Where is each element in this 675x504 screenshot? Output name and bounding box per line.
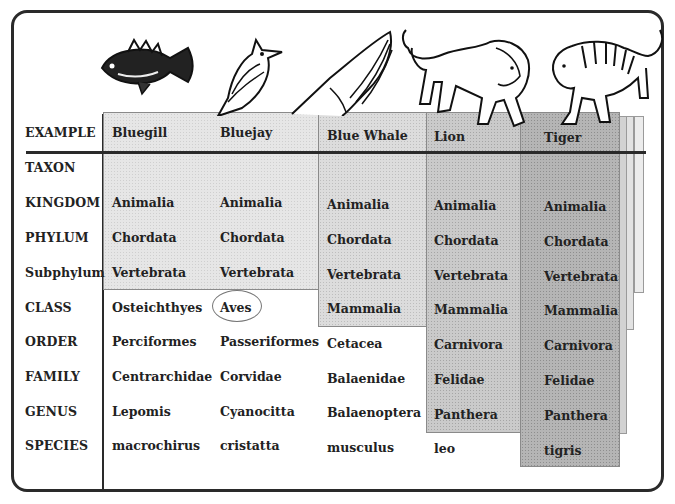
cell-tiger-species: tigris: [544, 443, 582, 458]
cell-bluegill-class: Osteichthyes: [112, 300, 202, 315]
header-divider: [26, 151, 646, 154]
cell-bluegill-phylum: Chordata: [112, 230, 177, 245]
row-label-genus: GENUS: [25, 404, 77, 419]
cell-tiger-family: Felidae: [544, 373, 594, 388]
cell-bluewhale-kingdom: Animalia: [327, 197, 389, 212]
cell-bluegill-subphylum: Vertebrata: [112, 265, 186, 280]
group-strip-1: [619, 116, 627, 434]
bluegill-fish-icon: [98, 38, 204, 102]
row-label-kingdom: KINGDOM: [25, 195, 100, 210]
cell-lion-class: Mammalia: [434, 302, 508, 317]
cell-bluewhale-subphylum: Vertebrata: [327, 267, 401, 282]
cell-lion-phylum: Chordata: [434, 233, 499, 248]
blue-whale-icon: [290, 28, 402, 116]
row-label-taxon: TAXON: [25, 160, 76, 175]
row-label-subphylum: Subphylum: [25, 265, 105, 280]
cell-bluejay-genus: Cyanocitta: [220, 404, 295, 419]
row-label-species: SPECIES: [25, 438, 88, 453]
cell-bluejay-class: Aves: [220, 300, 251, 315]
cell-lion-kingdom: Animalia: [434, 198, 496, 213]
row-label-phylum: PHYLUM: [25, 230, 89, 245]
cell-bluewhale-order: Cetacea: [327, 336, 382, 351]
row-label-example: EXAMPLE: [25, 125, 96, 140]
cell-tiger-subphylum: Vertebrata: [544, 269, 618, 284]
cell-tiger-kingdom: Animalia: [544, 199, 606, 214]
cell-bluejay-phylum: Chordata: [220, 230, 285, 245]
cell-tiger-genus: Panthera: [544, 408, 608, 423]
cell-bluegill-species: macrochirus: [112, 438, 200, 453]
cell-tiger-class: Mammalia: [544, 303, 618, 318]
cell-bluegill-family: Centrarchidae: [112, 369, 212, 384]
cell-bluegill-genus: Lepomis: [112, 404, 171, 419]
bluejay-bird-icon: [210, 36, 286, 116]
cell-bluejay-order: Passeriformes: [220, 334, 319, 349]
tiger-icon: [548, 28, 666, 132]
cell-bluejay-subphylum: Vertebrata: [220, 265, 294, 280]
cell-bluejay-kingdom: Animalia: [220, 195, 282, 210]
cell-lion-order: Carnivora: [434, 337, 503, 352]
shaded-group-mammalia: [318, 112, 428, 327]
cell-lion-species: leo: [434, 441, 455, 456]
cell-bluewhale-species: musculus: [327, 440, 394, 455]
cell-bluejay-species: cristatta: [220, 438, 280, 453]
cell-lion-genus: Panthera: [434, 407, 498, 422]
lion-icon: [400, 26, 540, 132]
group-strip-3: [634, 116, 644, 293]
row-label-family: FAMILY: [25, 369, 80, 384]
cell-tiger-example: Tiger: [544, 130, 581, 145]
cell-bluewhale-example: Blue Whale: [327, 128, 408, 143]
cell-bluewhale-genus: Balaenoptera: [327, 405, 421, 420]
cell-bluewhale-family: Balaenidae: [327, 371, 405, 386]
cell-lion-family: Felidae: [434, 372, 484, 387]
cell-bluewhale-phylum: Chordata: [327, 232, 392, 247]
cell-bluegill-order: Perciformes: [112, 334, 196, 349]
cell-bluewhale-class: Mammalia: [327, 301, 401, 316]
row-label-class: CLASS: [25, 300, 72, 315]
cell-bluegill-example: Bluegill: [112, 125, 167, 140]
cell-lion-subphylum: Vertebrata: [434, 268, 508, 283]
cell-bluejay-family: Corvidae: [220, 369, 282, 384]
cell-tiger-order: Carnivora: [544, 338, 613, 353]
cell-tiger-phylum: Chordata: [544, 234, 609, 249]
cell-bluejay-example: Bluejay: [220, 125, 272, 140]
row-label-order: ORDER: [25, 334, 78, 349]
cell-bluegill-kingdom: Animalia: [112, 195, 174, 210]
group-strip-2: [626, 116, 634, 330]
